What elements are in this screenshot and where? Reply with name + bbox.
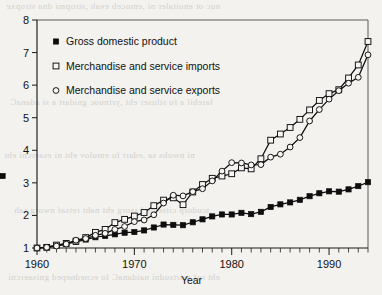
- axis-lines: [37, 20, 368, 248]
- data-point-marker: [0, 173, 5, 178]
- x-tick-label: 1970: [122, 258, 146, 270]
- data-point-marker: [200, 217, 205, 222]
- y-tick-label: 7: [23, 47, 29, 59]
- y-tick-label: 1: [23, 242, 29, 254]
- x-tick-label: 1960: [25, 258, 49, 270]
- data-point-marker: [277, 131, 283, 137]
- data-point-marker: [268, 154, 274, 160]
- data-point-marker: [170, 192, 176, 198]
- data-point-marker: [209, 178, 215, 184]
- legend-label: Merchandise and service exports: [66, 84, 220, 96]
- data-point-marker: [248, 162, 254, 168]
- data-point-marker: [355, 74, 361, 80]
- data-point-marker: [258, 156, 264, 162]
- data-point-marker: [249, 212, 254, 217]
- data-point-marker: [229, 160, 235, 166]
- data-point-marker: [297, 116, 303, 122]
- data-point-marker: [278, 202, 283, 207]
- data-point-marker: [346, 187, 351, 192]
- data-point-marker: [122, 224, 128, 230]
- data-point-marker: [131, 219, 137, 225]
- chart-figure: nuc ot enoitaler ni ,emoceb evah ,stropm…: [0, 0, 382, 295]
- data-point-marker: [307, 194, 312, 199]
- data-point-marker: [122, 216, 128, 222]
- legend-label: Merchandise and service imports: [66, 60, 220, 72]
- data-point-marker: [219, 212, 224, 217]
- data-point-marker: [63, 241, 69, 247]
- data-point-marker: [190, 220, 195, 225]
- y-tick-label: 5: [23, 112, 29, 124]
- data-point-marker: [297, 197, 302, 202]
- x-axis-title: Year: [181, 274, 203, 286]
- data-point-marker: [258, 162, 264, 168]
- data-point-marker: [131, 213, 137, 219]
- data-point-marker: [112, 220, 118, 226]
- data-point-marker: [171, 222, 176, 227]
- data-point-marker: [365, 39, 371, 45]
- data-point-marker: [326, 91, 332, 97]
- data-point-marker: [297, 135, 303, 141]
- data-point-marker: [73, 237, 79, 243]
- y-tick-label: 8: [23, 14, 29, 26]
- data-point-marker: [132, 229, 137, 234]
- data-point-marker: [180, 223, 185, 228]
- y-tick-label: 2: [23, 209, 29, 221]
- data-point-marker: [268, 137, 274, 143]
- x-tick-label: 1980: [219, 258, 243, 270]
- data-point-marker: [326, 189, 331, 194]
- data-point-marker: [258, 209, 263, 214]
- data-point-marker: [336, 88, 342, 94]
- data-point-marker: [239, 160, 245, 166]
- data-point-marker: [336, 189, 341, 194]
- data-point-marker: [151, 225, 156, 230]
- data-point-marker: [316, 98, 322, 104]
- data-point-marker: [141, 228, 146, 233]
- data-point-marker: [54, 243, 60, 249]
- data-point-marker: [180, 193, 186, 199]
- data-point-marker: [34, 245, 40, 251]
- data-point-marker: [180, 202, 186, 208]
- data-point-marker: [102, 230, 108, 236]
- legend-marker: [53, 39, 58, 44]
- chart-canvas: 123456781960197019801990YearGross domest…: [0, 0, 382, 295]
- data-point-marker: [365, 180, 370, 185]
- legend-marker: [53, 88, 59, 94]
- legend-label: Gross domestic product: [66, 35, 177, 47]
- data-point-marker: [346, 80, 352, 86]
- data-point-marker: [112, 227, 118, 233]
- data-point-marker: [122, 230, 127, 235]
- data-point-marker: [356, 184, 361, 189]
- data-point-marker: [317, 191, 322, 196]
- data-point-marker: [287, 144, 293, 150]
- data-point-marker: [190, 189, 196, 195]
- data-point-marker: [210, 214, 215, 219]
- data-point-marker: [83, 236, 89, 242]
- data-point-marker: [355, 62, 361, 68]
- data-point-marker: [307, 118, 313, 124]
- data-point-marker: [200, 186, 206, 192]
- data-point-marker: [365, 52, 371, 58]
- y-tick-label: 3: [23, 177, 29, 189]
- data-point-marker: [151, 212, 157, 218]
- data-point-marker: [287, 125, 293, 131]
- plot-frame: [37, 20, 368, 248]
- data-point-marker: [93, 232, 99, 238]
- x-tick-label: 1990: [317, 258, 341, 270]
- data-point-marker: [229, 212, 234, 217]
- data-point-marker: [161, 222, 166, 227]
- y-tick-label: 4: [23, 144, 29, 156]
- data-point-marker: [229, 171, 235, 177]
- data-point-marker: [151, 203, 157, 209]
- data-point-marker: [141, 210, 147, 216]
- legend-marker: [53, 63, 59, 69]
- data-point-marker: [288, 200, 293, 205]
- data-point-marker: [161, 200, 167, 206]
- data-point-marker: [307, 107, 313, 113]
- data-point-marker: [326, 96, 332, 102]
- data-point-marker: [219, 168, 225, 174]
- data-point-marker: [277, 151, 283, 157]
- data-point-marker: [141, 217, 147, 223]
- data-point-marker: [44, 244, 50, 250]
- data-point-marker: [268, 204, 273, 209]
- data-point-marker: [239, 210, 244, 215]
